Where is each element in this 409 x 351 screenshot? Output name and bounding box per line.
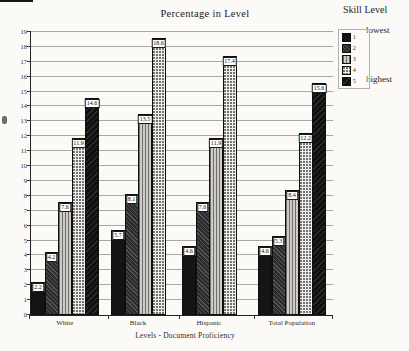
y-axis-tick-label: 12 <box>21 133 28 140</box>
y-axis-tick <box>27 120 31 121</box>
y-axis-tick-label: 6 <box>24 222 27 229</box>
y-axis-tick-label: 10 <box>21 163 28 170</box>
scan-artifact-smudge <box>2 116 7 124</box>
legend-row-level-3: 3 <box>342 54 369 65</box>
gridline <box>31 105 333 106</box>
y-axis-tick-label: 9 <box>24 178 27 185</box>
bar-value-label: 15.6 <box>312 84 327 93</box>
bar-black-level-4: 18.6 <box>152 38 166 315</box>
bar-white-level-4: 11.9 <box>72 138 86 315</box>
bar-value-label: 11.9 <box>71 139 85 148</box>
bar-total-population-level-5: 15.6 <box>312 83 326 315</box>
bar-white-level-1: 2.2 <box>31 282 45 315</box>
gridline <box>31 31 333 32</box>
legend-row-level-4: 4 <box>342 65 369 76</box>
y-axis-tick <box>27 254 31 255</box>
legend-swatch-icon <box>342 66 351 75</box>
bar-total-population-level-1: 4.6 <box>258 246 272 315</box>
y-axis-tick <box>27 150 31 151</box>
chart-title: Percentage in Level <box>160 8 249 19</box>
bar-total-population-level-4: 12.2 <box>299 133 313 315</box>
bar-value-label: 7.6 <box>59 203 71 212</box>
legend-item-label: 4 <box>353 68 356 74</box>
x-axis-tick <box>179 315 180 319</box>
legend-box: 12345 <box>338 29 370 89</box>
legend-row-level-5: 5 <box>342 76 369 87</box>
bar-value-label: 4.2 <box>46 253 58 262</box>
legend-swatch-icon <box>342 44 351 53</box>
legend-swatch-icon <box>342 33 351 42</box>
gridline <box>31 120 333 121</box>
y-axis-tick <box>27 269 31 270</box>
x-axis-tick <box>108 315 109 319</box>
y-axis-tick-label: 18 <box>21 44 28 51</box>
y-axis-tick-label: 11 <box>21 148 27 155</box>
bar-value-label: 5.3 <box>273 237 285 246</box>
bar-hispanic-level-4: 17.4 <box>223 56 237 315</box>
y-axis-tick <box>27 180 31 181</box>
y-axis-tick <box>27 240 31 241</box>
category-label-black: Black <box>130 319 146 327</box>
y-axis-tick <box>27 135 31 136</box>
legend-row-level-1: 1 <box>342 32 369 43</box>
legend-item-label: 1 <box>353 35 356 41</box>
x-axis-tick <box>332 315 333 319</box>
x-axis-tick <box>254 315 255 319</box>
bar-value-label: 7.6 <box>197 203 209 212</box>
gridline <box>31 135 333 136</box>
y-axis-tick-label: 15 <box>21 88 28 95</box>
bar-value-label: 2.2 <box>32 283 44 292</box>
category-label-hispanic: Hispanic <box>197 319 222 327</box>
legend-item-label: 5 <box>353 79 356 85</box>
bar-value-label: 13.5 <box>138 115 153 124</box>
y-axis-tick-label: 4 <box>24 252 27 259</box>
scanned-bar-chart-figure: Percentage in Level 01234567891011121314… <box>0 0 409 351</box>
y-axis-tick <box>27 46 31 47</box>
bar-value-label: 12.2 <box>298 134 313 143</box>
y-axis-tick <box>27 76 31 77</box>
y-axis-tick <box>27 31 31 32</box>
y-axis-tick <box>27 195 31 196</box>
y-axis-tick-label: 2 <box>24 282 27 289</box>
y-axis-tick-label: 16 <box>21 73 28 80</box>
bar-value-label: 4.6 <box>183 247 195 256</box>
plot-area: 0123456789101112131415161718192.24.27.61… <box>30 32 333 316</box>
y-axis-tick-label: 5 <box>24 237 27 244</box>
bar-white-level-2: 4.2 <box>45 252 59 315</box>
y-axis-tick-label: 17 <box>21 59 28 66</box>
bar-total-population-level-3: 8.4 <box>285 190 299 315</box>
legend-row-level-2: 2 <box>342 43 369 54</box>
x-axis-tick <box>29 315 30 319</box>
gridline <box>31 91 333 92</box>
bar-hispanic-level-1: 4.6 <box>182 246 196 315</box>
bar-black-level-3: 13.5 <box>138 114 152 315</box>
legend-swatch-icon <box>342 55 351 64</box>
y-axis-tick <box>27 105 31 106</box>
y-axis-tick-label: 14 <box>21 103 28 110</box>
legend: Skill Level lowest highest 12345 <box>337 4 409 114</box>
bar-black-level-1: 5.7 <box>111 230 125 315</box>
gridline <box>31 76 333 77</box>
legend-item-label: 3 <box>353 57 356 63</box>
bar-black-level-2: 8.1 <box>125 194 139 315</box>
gridline <box>31 46 333 47</box>
bar-value-label: 11.9 <box>209 139 223 148</box>
bar-value-label: 4.6 <box>259 247 271 256</box>
bar-value-label: 14.6 <box>85 99 100 108</box>
gridline <box>31 61 333 62</box>
bar-total-population-level-2: 5.3 <box>272 236 286 315</box>
bar-white-level-3: 7.6 <box>58 202 72 315</box>
scan-artifact-line <box>0 0 33 2</box>
y-axis-tick <box>27 61 31 62</box>
y-axis-tick <box>27 210 31 211</box>
bar-white-level-5: 14.6 <box>85 98 99 315</box>
bar-value-label: 8.1 <box>126 195 138 204</box>
y-axis-tick-label: 13 <box>21 118 28 125</box>
category-label-total-population: Total Population <box>269 319 315 327</box>
legend-title: Skill Level <box>343 4 387 15</box>
y-axis-tick <box>27 165 31 166</box>
bar-value-label: 5.7 <box>112 231 124 240</box>
bar-value-label: 17.4 <box>222 57 237 66</box>
legend-item-label: 2 <box>353 46 356 52</box>
category-label-white: White <box>56 319 73 327</box>
